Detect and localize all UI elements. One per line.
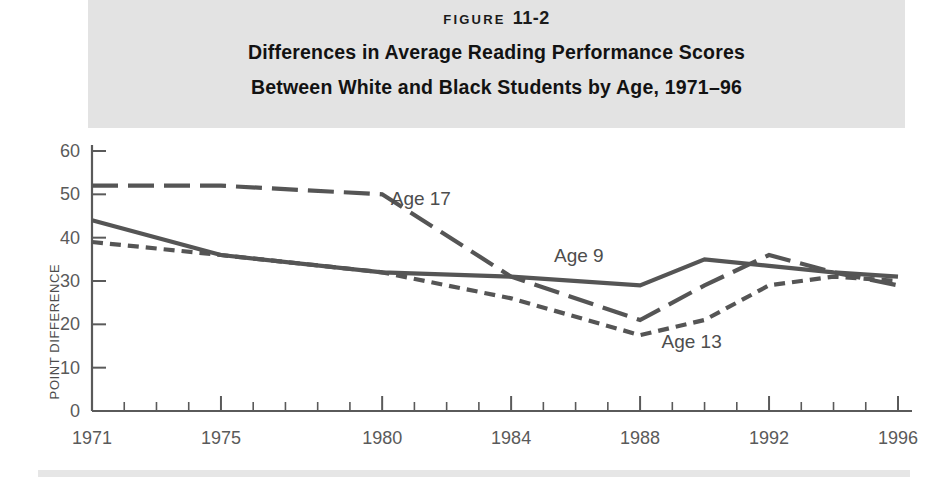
- chart-plot-area: POINT DIFFERENCE 01020304050601971197519…: [0, 128, 938, 458]
- figure-number-word: FIGURE: [443, 12, 505, 27]
- y-axis-tick-label: 30: [60, 271, 80, 291]
- figure-number-value: 11-2: [513, 8, 550, 28]
- y-axis-tick-label: 20: [60, 314, 80, 334]
- figure-header-band: FIGURE11-2 Differences in Average Readin…: [88, 0, 905, 128]
- y-axis-tick-label: 40: [60, 228, 80, 248]
- x-axis-tick-label: 1988: [620, 428, 660, 448]
- x-axis-tick-label: 1980: [362, 428, 402, 448]
- series-line-age-9: [92, 220, 898, 285]
- x-axis-tick-label: 1975: [201, 428, 241, 448]
- figure-root: FIGURE11-2 Differences in Average Readin…: [0, 0, 938, 493]
- bottom-divider: [38, 470, 910, 477]
- y-axis-tick-label: 50: [60, 184, 80, 204]
- figure-title-line-1: Differences in Average Reading Performan…: [88, 41, 905, 64]
- x-axis-tick-label: 1984: [491, 428, 531, 448]
- figure-number: FIGURE11-2: [88, 8, 905, 29]
- x-axis-tick-label: 1971: [72, 428, 112, 448]
- x-axis-tick-label: 1992: [749, 428, 789, 448]
- y-axis-tick-label: 0: [70, 401, 80, 421]
- line-chart: 0102030405060197119751980198419881992199…: [0, 128, 938, 458]
- y-axis-tick-label: 60: [60, 141, 80, 161]
- y-axis-title: POINT DIFFERENCE: [47, 252, 62, 412]
- series-label-age-9: Age 9: [554, 245, 604, 266]
- figure-title-line-2: Between White and Black Students by Age,…: [88, 76, 905, 99]
- series-label-age-13: Age 13: [662, 331, 722, 352]
- series-label-age-17: Age 17: [391, 188, 451, 209]
- x-axis-tick-label: 1996: [878, 428, 918, 448]
- y-axis-tick-label: 10: [60, 358, 80, 378]
